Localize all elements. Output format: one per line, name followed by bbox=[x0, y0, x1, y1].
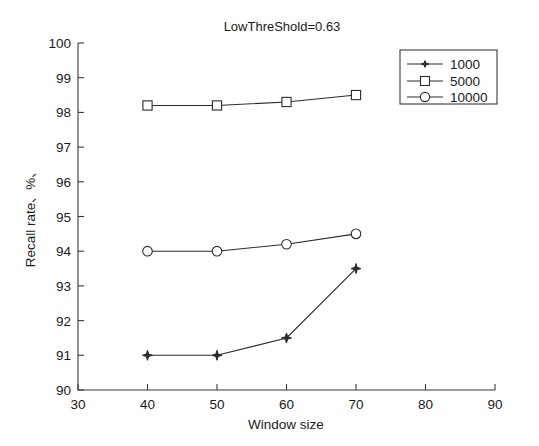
line-chart: LowThreShold=0.63 bbox=[0, 0, 539, 446]
y-tick-label: 98 bbox=[56, 105, 71, 120]
y-tick-label: 94 bbox=[56, 244, 72, 259]
square-icon bbox=[421, 77, 430, 86]
chart-legend[interactable]: 1000 5000 10000 bbox=[400, 50, 497, 105]
circle-marker bbox=[351, 229, 361, 239]
x-tick-label: 70 bbox=[348, 397, 363, 412]
legend-label-10000: 10000 bbox=[450, 90, 488, 105]
circle-icon bbox=[420, 92, 429, 101]
y-tick-label: 97 bbox=[56, 140, 71, 155]
chart-figure: LowThreShold=0.63 bbox=[0, 0, 539, 446]
legend-label-5000: 5000 bbox=[450, 74, 480, 89]
y-tick-label: 100 bbox=[48, 36, 71, 51]
square-marker bbox=[351, 90, 360, 99]
y-tick-label: 96 bbox=[56, 175, 71, 190]
chart-title: LowThreShold=0.63 bbox=[224, 19, 341, 34]
square-marker bbox=[212, 101, 221, 110]
y-tick-label: 99 bbox=[56, 71, 71, 86]
x-tick-label: 60 bbox=[279, 397, 294, 412]
x-axis-title: Window size bbox=[248, 417, 324, 432]
y-axis-title: Recall rate、%、 bbox=[23, 165, 38, 268]
y-tick-label: 95 bbox=[56, 210, 71, 225]
square-marker bbox=[282, 97, 291, 106]
x-tick-label: 90 bbox=[487, 397, 502, 412]
y-tick-label: 91 bbox=[56, 348, 71, 363]
legend-label-1000: 1000 bbox=[450, 57, 480, 72]
circle-marker bbox=[143, 246, 153, 256]
circle-marker bbox=[212, 246, 222, 256]
square-marker bbox=[143, 101, 152, 110]
y-tick-label: 90 bbox=[56, 383, 71, 398]
x-tick-label: 50 bbox=[209, 397, 224, 412]
x-tick-label: 40 bbox=[140, 397, 155, 412]
y-tick-label: 93 bbox=[56, 279, 71, 294]
y-tick-label: 92 bbox=[56, 314, 71, 329]
circle-marker bbox=[282, 239, 292, 249]
x-tick-label: 30 bbox=[70, 397, 85, 412]
x-tick-label: 80 bbox=[418, 397, 433, 412]
